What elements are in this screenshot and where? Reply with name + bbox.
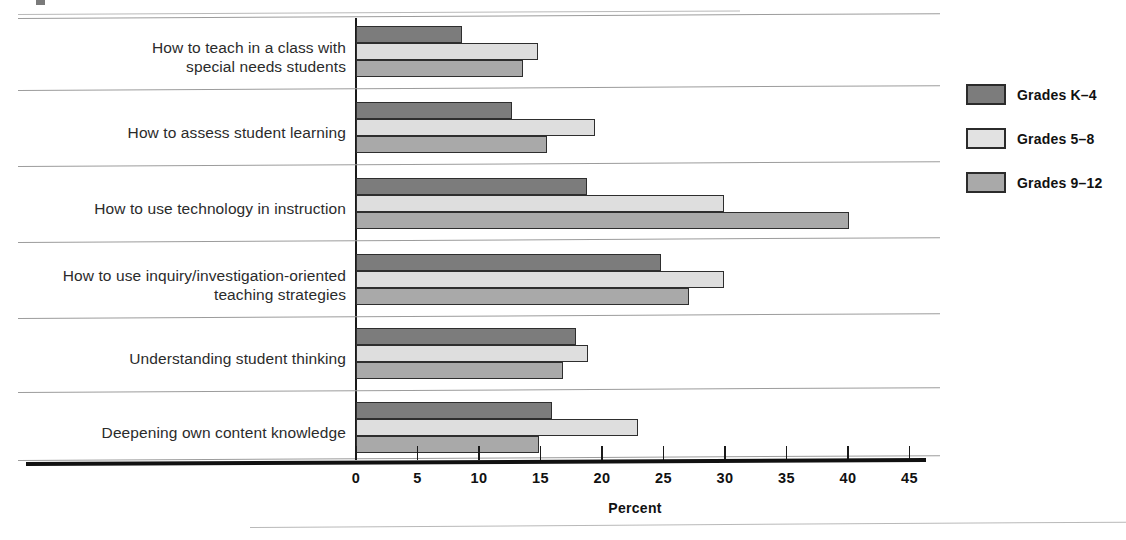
bar-1 <box>356 345 588 362</box>
category-label: How to assess student learning <box>128 123 346 142</box>
category-label: Understanding student thinking <box>129 349 346 368</box>
x-axis-tick <box>540 446 542 460</box>
bar-chart: How to teach in a class with special nee… <box>0 0 1126 540</box>
x-axis-tick-label: 45 <box>901 470 918 486</box>
bar-2 <box>356 362 563 379</box>
bar-2 <box>356 436 539 453</box>
category-label: Deepening own content knowledge <box>102 423 346 442</box>
category-separator-line <box>18 85 940 91</box>
category-label: How to teach in a class with special nee… <box>152 38 346 76</box>
x-axis-tick <box>355 446 357 460</box>
zero-baseline-axis <box>355 18 357 460</box>
bar-0 <box>356 254 661 271</box>
bar-0 <box>356 26 462 43</box>
category-separator-line <box>18 313 940 319</box>
bar-2 <box>356 212 849 229</box>
bar-1 <box>356 271 724 288</box>
plot-area: How to teach in a class with special nee… <box>0 18 935 460</box>
bar-1 <box>356 119 595 136</box>
legend-item: Grades 5–8 <box>966 128 1095 149</box>
legend-label: Grades 5–8 <box>1017 131 1095 147</box>
x-axis-tick <box>417 446 419 460</box>
legend-item: Grades K–4 <box>966 84 1097 105</box>
x-axis-tick <box>724 446 726 460</box>
bar-1 <box>356 195 724 212</box>
x-axis-tick <box>601 446 603 460</box>
bar-2 <box>356 60 523 77</box>
x-axis-tick-label: 35 <box>778 470 795 486</box>
bar-0 <box>356 328 576 345</box>
x-axis-tick-label: 15 <box>532 470 549 486</box>
legend-swatch-icon <box>966 128 1006 149</box>
legend-swatch-icon <box>966 172 1006 193</box>
bar-2 <box>356 288 689 305</box>
category-separator-line <box>18 237 940 243</box>
x-axis-tick-label: 40 <box>840 470 857 486</box>
category-separator-line <box>18 387 940 393</box>
bar-0 <box>356 102 512 119</box>
legend-swatch-icon <box>966 84 1006 105</box>
page-rule-bottom <box>250 522 1126 528</box>
category-label: How to use technology in instruction <box>94 199 346 218</box>
page-artifact-fragment <box>36 0 45 5</box>
x-axis-tick-label: 25 <box>655 470 672 486</box>
x-axis-tick <box>478 446 480 460</box>
legend-label: Grades K–4 <box>1017 87 1097 103</box>
x-axis-tick-label: 20 <box>594 470 611 486</box>
legend-item: Grades 9–12 <box>966 172 1102 193</box>
bar-2 <box>356 136 547 153</box>
x-axis-title: Percent <box>355 500 915 516</box>
x-axis-tick-label: 30 <box>717 470 734 486</box>
category-label: How to use inquiry/investigation-oriente… <box>63 266 346 304</box>
legend-label: Grades 9–12 <box>1017 175 1102 191</box>
x-axis-tick-label: 0 <box>352 470 360 486</box>
bar-1 <box>356 419 638 436</box>
x-axis-tick-label: 5 <box>413 470 421 486</box>
bar-0 <box>356 178 587 195</box>
x-axis-tick-label: 10 <box>471 470 488 486</box>
category-separator-line <box>18 161 940 167</box>
x-axis-tick <box>663 446 665 460</box>
bar-0 <box>356 402 552 419</box>
bar-1 <box>356 43 538 60</box>
